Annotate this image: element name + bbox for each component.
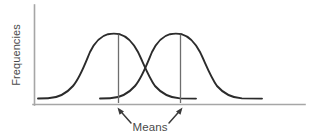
y-axis-label: Frequencies — [10, 24, 22, 86]
means-annotation-label: Means — [132, 121, 167, 133]
figure-canvas: Means Frequencies — [0, 0, 315, 136]
distribution-curve-1 — [38, 34, 196, 99]
normal-distribution-figure: Means Frequencies — [0, 0, 315, 136]
